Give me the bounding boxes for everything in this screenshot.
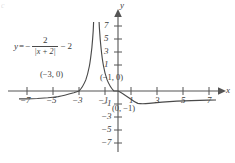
point-label-minus3-0: (−3, 0) bbox=[40, 70, 63, 79]
x-tick-label--7: −7 bbox=[20, 96, 31, 105]
x-tick-label--5: −5 bbox=[46, 96, 57, 105]
equation-label: y = − 2 |x + 2| − 2 bbox=[14, 36, 72, 56]
figure-container: c x bbox=[0, 0, 235, 163]
y-tick-label--5: −5 bbox=[101, 125, 112, 134]
curve-left-branch bbox=[19, 22, 94, 99]
equation-numerator: 2 bbox=[41, 36, 50, 45]
y-tick-label-3: 3 bbox=[104, 47, 109, 56]
equation-denominator: |x + 2| bbox=[32, 48, 57, 56]
x-tick-label--3: −3 bbox=[72, 96, 83, 105]
point-label-minus1-0: (−1, 0) bbox=[100, 73, 123, 82]
y-axis-label: y bbox=[120, 1, 124, 10]
equation-equals: = bbox=[19, 41, 24, 51]
y-tick-label-5: 5 bbox=[104, 34, 109, 43]
x-axis-label: x bbox=[226, 86, 230, 95]
equation-trailing-term: − 2 bbox=[60, 41, 72, 51]
point-label-0-minus1: (0, −1) bbox=[112, 104, 135, 113]
equation-minus-sign: − bbox=[25, 41, 30, 51]
y-tick-label--7: −7 bbox=[101, 138, 112, 147]
equation-lhs: y bbox=[14, 41, 18, 51]
x-axis-arrow bbox=[218, 87, 226, 95]
x-tick-label-5: 5 bbox=[181, 96, 186, 105]
y-axis-arrow bbox=[114, 9, 122, 17]
equation-fraction: 2 |x + 2| bbox=[32, 36, 58, 56]
x-tick-label-7: 7 bbox=[207, 96, 212, 105]
y-tick-label--3: −3 bbox=[101, 112, 112, 121]
y-tick-label--1: −1 bbox=[101, 99, 112, 108]
y-tick-label-1: 1 bbox=[104, 60, 109, 69]
y-tick-label-7: 7 bbox=[104, 21, 109, 30]
x-tick-label-3: 3 bbox=[155, 96, 160, 105]
